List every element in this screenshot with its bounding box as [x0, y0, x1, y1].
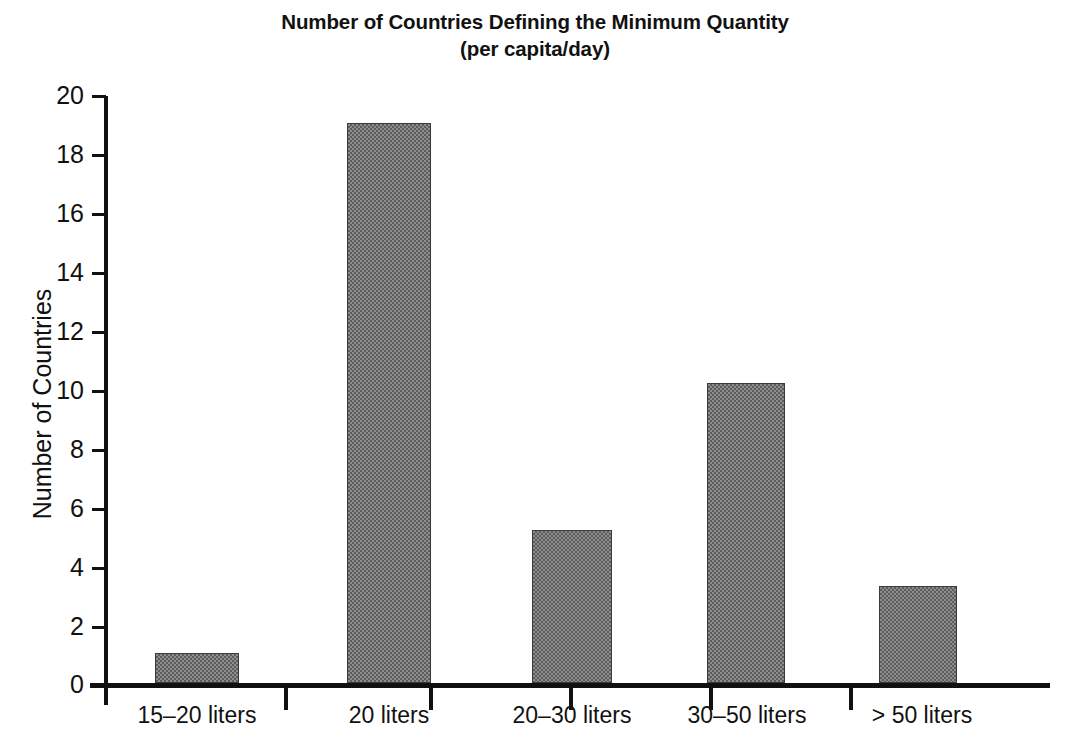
y-tick-label-12: 12: [24, 319, 84, 344]
bar-over-50-liters: [879, 586, 957, 683]
x-label-over-50-liters: > 50 liters: [834, 700, 1010, 730]
plot-area: Number of Countries 20 18 16 14 12 10 8 …: [0, 0, 1070, 754]
y-tick-label-16: 16: [24, 201, 84, 226]
y-tick-label-8: 8: [24, 437, 84, 462]
y-tick-8: [92, 449, 106, 452]
y-tick-2: [92, 626, 106, 629]
y-tick-label-2: 2: [24, 614, 84, 639]
chart-page: Number of Countries Defining the Minimum…: [0, 0, 1070, 754]
bar-30-50-liters: [707, 383, 785, 683]
y-tick-0: [92, 684, 106, 687]
x-tick-1: [284, 687, 288, 710]
y-tick-18: [92, 154, 106, 157]
y-tick-label-6: 6: [24, 496, 84, 521]
x-label-20-30-liters: 20–30 liters: [470, 700, 674, 730]
y-tick-12: [92, 331, 106, 334]
bar-20-liters: [347, 123, 431, 683]
y-tick-label-14: 14: [24, 260, 84, 285]
x-label-15-20-liters: 15–20 liters: [117, 700, 277, 730]
y-tick-14: [92, 272, 106, 275]
bar-15-20-liters: [155, 653, 239, 683]
y-tick-20: [92, 95, 106, 98]
y-tick-6: [92, 508, 106, 511]
y-tick-4: [92, 567, 106, 570]
x-label-30-50-liters: 30–50 liters: [645, 700, 849, 730]
y-tick-10: [92, 390, 106, 393]
y-tick-16: [92, 213, 106, 216]
bar-20-30-liters: [532, 530, 612, 683]
y-tick-label-18: 18: [24, 142, 84, 167]
y-tick-label-0: 0: [24, 672, 84, 697]
y-tick-label-4: 4: [24, 555, 84, 580]
y-axis-title: Number of Countries: [28, 194, 56, 614]
y-tick-label-10: 10: [24, 378, 84, 403]
x-label-20-liters: 20 liters: [311, 700, 467, 730]
y-tick-label-20: 20: [24, 83, 84, 108]
